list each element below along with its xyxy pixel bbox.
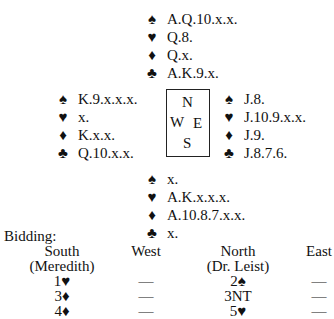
bid: 2♠ — [182, 274, 294, 289]
diamond-icon: ♦ — [54, 126, 72, 144]
club-icon: ♣ — [143, 224, 161, 242]
south-spades: ♠x. — [143, 170, 245, 188]
compass-east: E — [193, 116, 202, 131]
north-diamonds: ♦Q.x. — [143, 46, 237, 64]
header-east: East — [294, 244, 334, 259]
bid: — — [110, 289, 182, 304]
east-hearts: ♥J.10.9.x.x. — [220, 108, 306, 126]
east-clubs: ♣J.8.7.6. — [220, 144, 306, 162]
compass-box: N W E S — [166, 89, 210, 157]
bid: 4♦ — [14, 304, 110, 319]
bidding-round: 1♥ — 2♠ — — [14, 274, 334, 289]
player-east — [294, 259, 334, 274]
west-hand: ♠K.9.x.x.x. ♥x. ♦K.x.x. ♣Q.10.x.x. — [54, 90, 138, 162]
spade-icon: ♠ — [54, 90, 72, 108]
bidding-round: 3♦ — 3NT — — [14, 289, 334, 304]
club-icon: ♣ — [220, 144, 238, 162]
west-diamonds: ♦K.x.x. — [54, 126, 138, 144]
north-spades: ♠A.Q.10.x.x. — [143, 10, 237, 28]
bidding-header-row: South West North East — [14, 244, 334, 259]
south-diamonds: ♦A.10.8.7.x.x. — [143, 206, 245, 224]
diamond-icon: ♦ — [220, 126, 238, 144]
spade-icon: ♠ — [220, 90, 238, 108]
compass-south: S — [183, 136, 191, 151]
compass-west: W — [170, 115, 184, 130]
heart-icon: ♥ — [220, 108, 238, 126]
north-clubs: ♣A.K.9.x. — [143, 64, 237, 82]
east-spades: ♠J.8. — [220, 90, 306, 108]
bid: 1♥ — [14, 274, 110, 289]
header-west: West — [110, 244, 182, 259]
diamond-icon: ♦ — [143, 206, 161, 224]
bid: — — [294, 289, 334, 304]
bid: — — [110, 274, 182, 289]
compass-north: N — [182, 95, 193, 110]
player-north: (Dr. Leist) — [182, 259, 294, 274]
bid: 3♦ — [14, 289, 110, 304]
diamond-icon: ♦ — [143, 46, 161, 64]
bid: — — [110, 304, 182, 319]
bidding-round: 4♦ — 5♥ — — [14, 304, 334, 319]
player-south: (Meredith) — [14, 259, 110, 274]
club-icon: ♣ — [54, 144, 72, 162]
heart-icon: ♥ — [143, 28, 161, 46]
bid: — — [294, 274, 334, 289]
spade-icon: ♠ — [143, 170, 161, 188]
bidding-table: South West North East (Meredith) (Dr. Le… — [14, 244, 334, 319]
west-clubs: ♣Q.10.x.x. — [54, 144, 138, 162]
heart-icon: ♥ — [143, 188, 161, 206]
south-hearts: ♥A.K.x.x.x. — [143, 188, 245, 206]
west-hearts: ♥x. — [54, 108, 138, 126]
bidding-subheader-row: (Meredith) (Dr. Leist) — [14, 259, 334, 274]
east-hand: ♠J.8. ♥J.10.9.x.x. ♦J.9. ♣J.8.7.6. — [220, 90, 306, 162]
bid: 5♥ — [182, 304, 294, 319]
south-clubs: ♣x. — [143, 224, 245, 242]
east-diamonds: ♦J.9. — [220, 126, 306, 144]
north-hearts: ♥Q.8. — [143, 28, 237, 46]
header-north: North — [182, 244, 294, 259]
player-west — [110, 259, 182, 274]
club-icon: ♣ — [143, 64, 161, 82]
spade-icon: ♠ — [143, 10, 161, 28]
header-south: South — [14, 244, 110, 259]
heart-icon: ♥ — [54, 108, 72, 126]
north-hand: ♠A.Q.10.x.x. ♥Q.8. ♦Q.x. ♣A.K.9.x. — [143, 10, 237, 82]
bid: — — [294, 304, 334, 319]
bid: 3NT — [182, 289, 294, 304]
south-hand: ♠x. ♥A.K.x.x.x. ♦A.10.8.7.x.x. ♣x. — [143, 170, 245, 242]
west-spades: ♠K.9.x.x.x. — [54, 90, 138, 108]
